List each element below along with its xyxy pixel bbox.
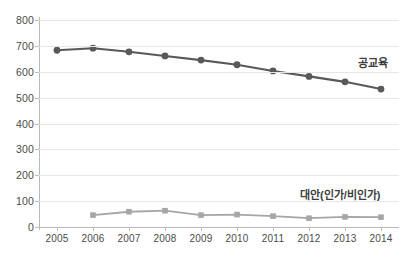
y-axis-tick-label: 700 [16, 41, 34, 52]
x-axis-tick-label: 2008 [153, 234, 176, 244]
x-axis-tick-label: 2014 [369, 234, 392, 244]
y-axis-tick-label: 500 [16, 93, 34, 104]
y-axis-tick-label: 800 [16, 15, 34, 26]
data-point-marker [306, 73, 313, 80]
data-point-marker [162, 208, 168, 214]
x-tick-mark [237, 227, 238, 231]
gridline [39, 175, 399, 176]
y-axis-tick-label: 400 [16, 119, 34, 130]
x-tick-mark [309, 227, 310, 231]
x-axis-tick-label: 2011 [262, 234, 284, 244]
gridline [39, 72, 399, 73]
y-tick-mark [35, 201, 39, 202]
x-tick-mark [381, 227, 382, 231]
series-public-education [54, 45, 385, 93]
series-line [57, 48, 381, 89]
gridline [39, 46, 399, 47]
data-point-marker [306, 215, 312, 221]
x-axis-tick-label: 2006 [81, 234, 104, 244]
data-point-marker [54, 47, 61, 54]
x-tick-mark [273, 227, 274, 231]
y-axis-tick-label: 100 [16, 196, 34, 207]
y-tick-mark [35, 72, 39, 73]
data-point-marker [378, 214, 384, 220]
x-tick-mark [345, 227, 346, 231]
series-label-public-education: 공교육 [358, 58, 388, 69]
x-tick-mark [129, 227, 130, 231]
x-axis-tick-label: 2009 [189, 234, 212, 244]
gridline [39, 124, 399, 125]
x-tick-mark [57, 227, 58, 231]
gridline [39, 149, 399, 150]
x-axis-tick-label: 2013 [333, 234, 356, 244]
y-tick-mark [35, 175, 39, 176]
data-point-marker [162, 53, 169, 60]
x-tick-mark [201, 227, 202, 231]
y-tick-mark [35, 149, 39, 150]
line-chart: 0100200300400500600700800 20052006200720… [0, 0, 408, 267]
y-tick-mark [35, 98, 39, 99]
data-point-marker [234, 212, 240, 218]
x-axis-tick-label: 2010 [225, 234, 248, 244]
y-axis-tick-label: 600 [16, 67, 34, 78]
data-point-marker [378, 86, 385, 93]
data-point-marker [126, 48, 133, 55]
y-tick-mark [35, 227, 39, 228]
data-point-marker [270, 213, 276, 219]
data-point-marker [126, 209, 132, 215]
gridline [39, 98, 399, 99]
x-axis-tick-label: 2005 [45, 234, 68, 244]
data-point-marker [234, 61, 241, 68]
x-tick-mark [93, 227, 94, 231]
x-axis-tick-label: 2012 [297, 234, 320, 244]
x-axis-tick-label: 2007 [117, 234, 140, 244]
data-point-marker [342, 78, 349, 85]
data-point-marker [198, 57, 205, 64]
x-tick-mark [165, 227, 166, 231]
data-point-marker [90, 212, 96, 218]
gridline [39, 20, 399, 21]
series-alternative [90, 208, 384, 221]
data-point-marker [342, 214, 348, 220]
series-label-alternative: 대안(인가/비인가) [300, 190, 380, 201]
y-axis-tick-label: 300 [16, 144, 34, 155]
y-axis-tick-label: 0 [28, 222, 34, 233]
y-tick-mark [35, 124, 39, 125]
y-axis-tick-label: 200 [16, 170, 34, 181]
y-tick-mark [35, 46, 39, 47]
data-point-marker [198, 212, 204, 218]
y-tick-mark [35, 20, 39, 21]
gridline [39, 201, 399, 202]
